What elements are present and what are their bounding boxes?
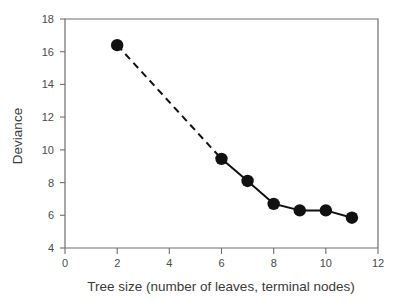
y-tick-label-16: 16 [42,46,54,58]
data-point [320,204,332,216]
y-tick-label-14: 14 [42,78,54,90]
data-point [294,204,306,216]
y-tick-label-4: 4 [48,242,54,254]
x-axis-title: Tree size (number of leaves, terminal no… [87,279,354,294]
chart-background [0,0,396,304]
y-tick-label-12: 12 [42,111,54,123]
data-point [215,153,227,165]
y-tick-label-10: 10 [42,144,54,156]
y-tick-label-18: 18 [42,13,54,25]
y-axis-title: Deviance [10,108,25,164]
data-point [111,39,123,51]
x-tick-label-12: 12 [372,257,384,269]
x-tick-label-10: 10 [320,257,332,269]
deviance-line-chart: 4 6 8 10 12 14 16 18 0 2 4 6 8 10 12 Tre… [0,0,396,304]
x-tick-label-8: 8 [271,257,277,269]
data-point [241,175,253,187]
data-point [346,212,358,224]
chart-container: 4 6 8 10 12 14 16 18 0 2 4 6 8 10 12 Tre… [0,0,396,304]
x-tick-label-4: 4 [166,257,172,269]
y-tick-label-6: 6 [48,209,54,221]
y-tick-label-8: 8 [48,177,54,189]
x-tick-label-2: 2 [114,257,120,269]
x-tick-label-6: 6 [218,257,224,269]
data-point [267,198,279,210]
x-tick-label-0: 0 [62,257,68,269]
